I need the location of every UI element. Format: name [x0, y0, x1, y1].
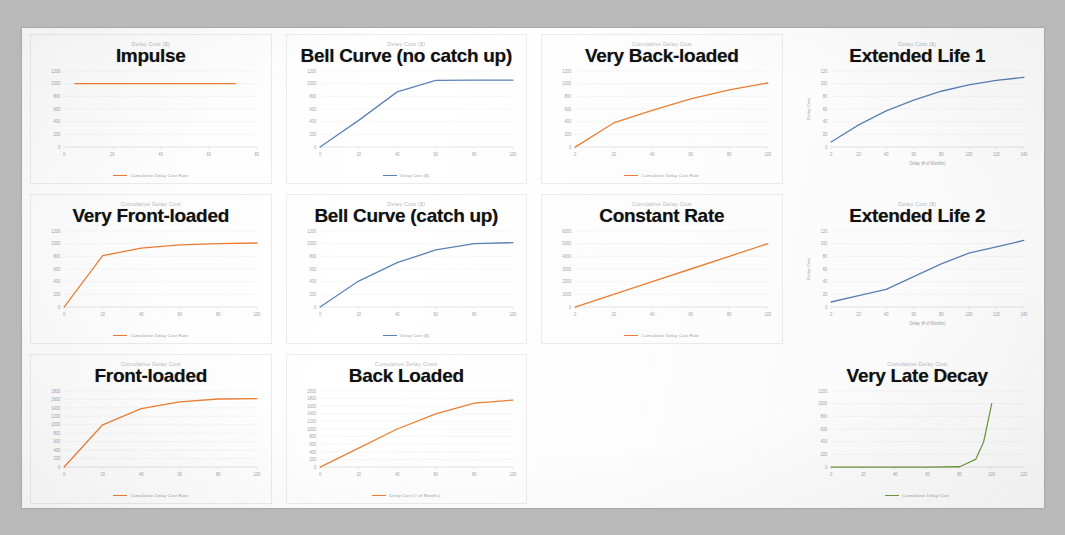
data-series-line — [831, 240, 1024, 302]
x-axis-tick-label: 0 — [318, 471, 321, 476]
x-axis-label: Delay (# of Months) — [909, 161, 945, 166]
y-axis-tick-label: 40 — [822, 119, 827, 124]
x-axis-tick-label: 0 — [318, 151, 321, 156]
chart-panel[interactable]: Delay Cost ($)12001000800600400200002040… — [286, 34, 528, 184]
x-axis-tick-label: 20 — [100, 311, 105, 316]
y-axis-tick-label: 0 — [58, 305, 61, 310]
chart-cell: Cumulative Delay Cost6000500040003000200… — [533, 188, 789, 348]
x-axis-tick-label: 60 — [925, 471, 930, 476]
data-series-line — [831, 77, 1024, 142]
chart-legend[interactable]: Cumulative Delay Cost Rate — [31, 493, 271, 498]
y-axis-tick-label: 100 — [820, 81, 827, 86]
legend-label: Cumulative Delay Cost Rate — [130, 173, 188, 178]
chart-overlay-title: Extended Life 1 — [798, 45, 1038, 67]
chart-panel[interactable]: Cumulative Delay Cost6000500040003000200… — [541, 194, 783, 344]
y-axis-tick-label: 0 — [824, 465, 827, 470]
chart-overlay-title: Very Front-loaded — [31, 205, 271, 227]
legend-label: Cumulative Delay Cost — [902, 493, 949, 498]
y-axis-tick-label: 1200 — [818, 388, 828, 393]
x-axis-tick-label: 20 — [356, 311, 361, 316]
y-axis-tick-label: 20 — [822, 132, 827, 137]
x-axis-tick-label: 20 — [110, 151, 115, 156]
x-axis-tick-label: 40 — [394, 151, 399, 156]
chart-overlay-title: Constant Rate — [542, 205, 782, 227]
legend-swatch-icon — [624, 335, 638, 337]
y-axis-tick-label: 800 — [564, 94, 571, 99]
y-axis-tick-label: 80 — [822, 94, 827, 99]
x-axis-tick-label: 0 — [63, 311, 66, 316]
chart-legend[interactable]: Cumulative Delay Cost Rate — [542, 173, 782, 178]
y-axis-tick-label: 400 — [53, 279, 60, 284]
y-axis-tick-label: 0 — [313, 465, 316, 470]
x-axis-tick-label: 100 — [988, 471, 995, 476]
chart-panel[interactable]: Cumulative Delay Cost1200100080060040020… — [797, 354, 1039, 504]
data-series-line — [575, 244, 768, 307]
x-axis-tick-label: 80 — [216, 471, 221, 476]
y-axis-tick-label: 400 — [309, 119, 316, 124]
chart-panel[interactable]: Delay Cost ($)12010080604020002040608010… — [797, 194, 1039, 344]
y-axis-tick-label: 1200 — [307, 419, 317, 424]
chart-panel[interactable]: Delay Cost ($)12001000800600400200002040… — [286, 194, 528, 344]
x-axis-tick-label: 40 — [139, 471, 144, 476]
y-axis-tick-label: 0 — [313, 305, 316, 310]
y-axis-tick-label: 100 — [820, 241, 827, 246]
x-axis-tick-label: 100 — [965, 311, 972, 316]
chart-overlay-title: Very Late Decay — [798, 365, 1038, 387]
chart-cell: Delay Cost ($)12001000800600400200002040… — [278, 188, 534, 348]
y-axis-tick-label: 1200 — [562, 68, 572, 73]
y-axis-tick-label: 80 — [822, 254, 827, 259]
chart-overlay-title: Bell Curve (no catch up) — [287, 45, 527, 67]
y-axis-tick-label: 1400 — [307, 411, 317, 416]
chart-legend[interactable]: Delay Cost ($) — [287, 333, 527, 338]
x-axis-tick-label: 60 — [911, 151, 916, 156]
chart-panel[interactable]: Cumulative Delay Cost1800160014001200100… — [30, 354, 272, 504]
y-axis-tick-label: 2000 — [562, 279, 572, 284]
x-axis-tick-label: 140 — [1020, 151, 1027, 156]
y-axis-tick-label: 1000 — [51, 241, 61, 246]
chart-panel[interactable]: Cumulative Delay Costs200018001600140012… — [286, 354, 528, 504]
chart-legend[interactable]: Cumulative Delay Cost Rate — [31, 333, 271, 338]
x-axis-tick-label: 100 — [509, 311, 516, 316]
x-axis-tick-label: 60 — [177, 471, 182, 476]
y-axis-tick-label: 400 — [309, 279, 316, 284]
x-axis-tick-label: 0 — [318, 311, 321, 316]
chart-panel[interactable]: Delay Cost ($)12001000800600400200002040… — [30, 34, 272, 184]
chart-cell: Cumulative Delay Cost1200100080060040020… — [533, 28, 789, 188]
x-axis-tick-label: 60 — [433, 471, 438, 476]
y-axis-tick-label: 400 — [53, 119, 60, 124]
y-axis-tick-label: 5000 — [562, 241, 572, 246]
x-axis-tick-label: 40 — [883, 311, 888, 316]
y-axis-tick-label: 1000 — [307, 81, 317, 86]
legend-swatch-icon — [113, 495, 127, 497]
y-axis-tick-label: 60 — [822, 267, 827, 272]
chart-legend[interactable]: Cumulative Delay Cost — [798, 493, 1038, 498]
chart-overlay-title: Bell Curve (catch up) — [287, 205, 527, 227]
chart-cell: Delay Cost ($)12001000800600400200002040… — [22, 28, 278, 188]
legend-label: Delay Cost ($) — [400, 173, 429, 178]
x-axis-tick-label: 40 — [883, 151, 888, 156]
chart-panel[interactable]: Cumulative Delay Cost1200100080060040020… — [541, 34, 783, 184]
chart-panel[interactable]: Delay Cost ($)12010080604020002040608010… — [797, 34, 1039, 184]
y-axis-tick-label: 40 — [822, 279, 827, 284]
x-axis-tick-label: 80 — [938, 151, 943, 156]
y-axis-tick-label: 2000 — [307, 388, 317, 393]
chart-legend[interactable]: Cumulative Delay Cost Rate — [31, 173, 271, 178]
legend-label: Cumulative Delay Cost Rate — [130, 333, 188, 338]
y-axis-tick-label: 800 — [309, 434, 316, 439]
x-axis-tick-label: 20 — [356, 151, 361, 156]
y-axis-label: Delay Cost — [805, 97, 810, 119]
y-axis-tick-label: 600 — [53, 107, 60, 112]
x-axis-tick-label: 40 — [650, 311, 655, 316]
chart-legend[interactable]: Cumulative Delay Cost Rate — [542, 333, 782, 338]
y-axis-tick-label: 3000 — [562, 267, 572, 272]
legend-label: Cumulative Delay Cost Rate — [641, 333, 699, 338]
x-axis-tick-label: 60 — [688, 151, 693, 156]
y-axis-tick-label: 6000 — [562, 228, 572, 233]
chart-legend[interactable]: Delay Cost ($) — [287, 173, 527, 178]
chart-grid: Delay Cost ($)12001000800600400200002040… — [22, 28, 1044, 508]
chart-panel[interactable]: Cumulative Delay Cost1200100080060040020… — [30, 194, 272, 344]
chart-legend[interactable]: Delay Cost (# of Months) — [287, 493, 527, 498]
x-axis-tick-label: 100 — [965, 151, 972, 156]
x-axis-tick-label: 40 — [139, 311, 144, 316]
y-axis-tick-label: 200 — [820, 452, 827, 457]
